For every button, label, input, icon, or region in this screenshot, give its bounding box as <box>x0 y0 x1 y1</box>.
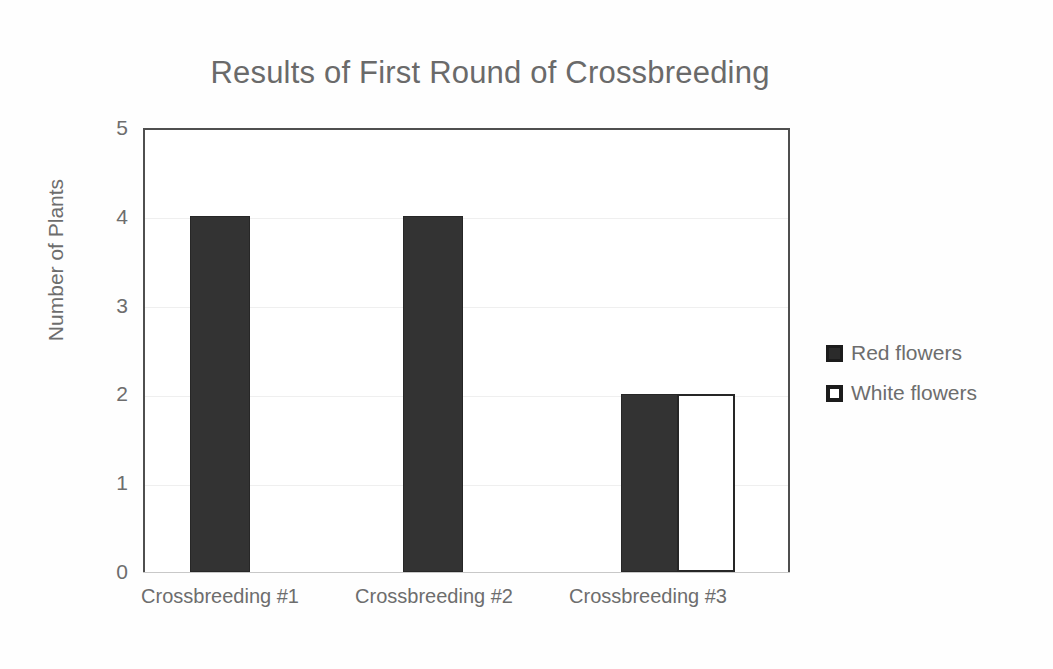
bar-crossbreeding-3-red[interactable] <box>621 394 678 572</box>
bar-chart: Results of First Round of Crossbreeding … <box>0 0 1053 669</box>
y-tick-label-0: 0 <box>94 560 128 584</box>
legend-label-white-flowers: White flowers <box>851 381 977 405</box>
chart-legend: Red flowers White flowers <box>826 333 977 413</box>
outlined-white-square-icon <box>826 385 843 402</box>
x-category-label-2: Crossbreeding #2 <box>334 585 534 608</box>
legend-label-red-flowers: Red flowers <box>851 341 962 365</box>
x-axis-baseline <box>143 572 790 573</box>
y-tick-label-2: 2 <box>94 382 128 406</box>
y-tick-label-3: 3 <box>94 294 128 318</box>
filled-dark-square-icon <box>826 345 843 362</box>
bar-crossbreeding-3-white[interactable] <box>677 394 735 572</box>
y-tick-label-4: 4 <box>94 205 128 229</box>
bar-crossbreeding-2-red[interactable] <box>403 216 463 572</box>
x-category-label-3: Crossbreeding #3 <box>548 585 748 608</box>
y-axis-title: Number of Plants <box>44 140 68 380</box>
plot-area <box>143 128 790 573</box>
legend-item-white-flowers[interactable]: White flowers <box>826 373 977 413</box>
chart-title: Results of First Round of Crossbreeding <box>0 55 980 91</box>
y-axis-tick-labels: 5 4 3 2 1 0 <box>86 0 128 669</box>
y-tick-label-5: 5 <box>94 116 128 140</box>
y-tick-label-1: 1 <box>94 471 128 495</box>
bar-crossbreeding-1-red[interactable] <box>190 216 250 572</box>
legend-item-red-flowers[interactable]: Red flowers <box>826 333 977 373</box>
x-category-label-1: Crossbreeding #1 <box>120 585 320 608</box>
